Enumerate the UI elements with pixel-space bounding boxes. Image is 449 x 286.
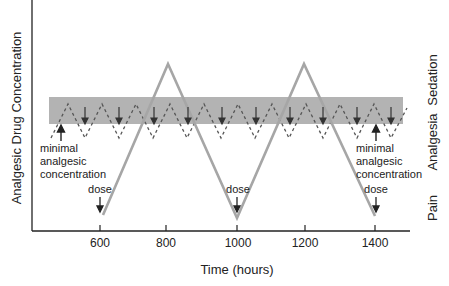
min-conc-arrow-left <box>58 125 65 141</box>
dose-label-1000: dose <box>226 183 250 195</box>
x-axis-label: Time (hours) <box>200 262 273 277</box>
note-line: minimal <box>356 142 422 155</box>
zone-label-analgesia: Analgesia <box>425 113 440 170</box>
zone-label-pain: Pain <box>425 195 440 221</box>
x-tick-label: 600 <box>90 236 110 250</box>
x-tick-label: 1400 <box>362 236 389 250</box>
zone-label-sedation: Sedation <box>425 54 440 105</box>
note-line: concentration <box>356 168 422 181</box>
dose-arrow-1000 <box>234 197 240 212</box>
y-axis-label: Analgesic Drug Concentration <box>9 32 24 205</box>
min-conc-arrow-right <box>373 125 380 141</box>
min-conc-note-left: minimal analgesic concentration <box>40 142 106 181</box>
x-ticks <box>100 225 375 231</box>
dose-label-1400: dose <box>364 183 388 195</box>
x-tick-label: 1000 <box>225 236 252 250</box>
note-line: concentration <box>40 168 106 181</box>
analgesia-band <box>49 97 403 124</box>
x-tick-label: 800 <box>156 236 176 250</box>
note-line: minimal <box>40 142 106 155</box>
min-conc-note-right: minimal analgesic concentration <box>356 142 422 181</box>
dose-arrow-600 <box>97 197 103 212</box>
dose-label-600: dose <box>88 183 112 195</box>
x-tick-label: 1200 <box>292 236 319 250</box>
dose-arrow-1400 <box>373 197 379 212</box>
note-line: analgesic <box>40 155 106 168</box>
note-line: analgesic <box>356 155 422 168</box>
